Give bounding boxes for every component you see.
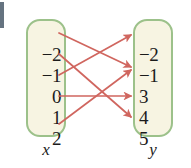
- range-element-2: 3: [135, 87, 171, 106]
- domain-element-1: −1: [28, 66, 64, 85]
- mapping-arrow-neg1-to-5: [59, 54, 131, 117]
- range-element-1: −1: [135, 66, 171, 85]
- range-element-3: 4: [135, 108, 171, 127]
- domain-element-3: 1: [28, 108, 64, 127]
- mapping-arrow-2-to-3: [59, 70, 131, 124]
- page-edge-artifact: [0, 2, 4, 28]
- domain-element-0: −2: [28, 45, 64, 64]
- domain-axis-label: x: [26, 140, 66, 160]
- mapping-arrow-neg2-to-3: [59, 33, 131, 67]
- range-element-0: −2: [135, 45, 171, 64]
- range-set-box: −2 −1 3 4 5: [133, 19, 173, 137]
- domain-set-box: −2 −1 0 1 2: [26, 19, 66, 137]
- mapping-arrow-0-to-neg2: [59, 35, 131, 75]
- domain-element-2: 0: [28, 87, 64, 106]
- mapping-diagram: −2 −1 0 1 2 −2 −1 3 4 5 x y: [0, 0, 191, 168]
- range-axis-label: y: [133, 140, 173, 160]
